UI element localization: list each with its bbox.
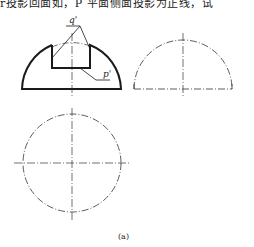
- side-view: [134, 33, 232, 98]
- hemisphere-outline: [22, 45, 121, 89]
- p-leader-diagonal: [80, 68, 96, 80]
- top-view: [14, 108, 130, 222]
- label-q-prime: q': [69, 15, 77, 25]
- q-leader-right: [80, 26, 90, 49]
- figure-caption: (a): [118, 232, 129, 241]
- front-view: [22, 26, 121, 98]
- phantom-arc: [52, 43, 90, 47]
- engineering-drawing: q' p': [0, 0, 254, 247]
- q-leader-left: [52, 26, 80, 58]
- label-p-prime: p': [103, 69, 111, 79]
